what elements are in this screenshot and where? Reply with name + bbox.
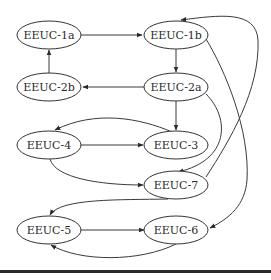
node-eeuc-1b: EEUC-1b: [144, 21, 208, 49]
node-eeuc-7: EEUC-7: [144, 171, 208, 199]
node-eeuc-6: EEUC-6: [144, 216, 208, 244]
edge-3-to-4: [55, 118, 172, 132]
edge-6-to-5: [51, 244, 176, 258]
node-eeuc-2b: EEUC-2b: [17, 73, 81, 101]
dependency-graph: EEUC-1a EEUC-1b EEUC-2b EEUC-2a EEUC-4 E…: [0, 0, 271, 280]
node-eeuc-2a: EEUC-2a: [144, 73, 208, 101]
node-label: EEUC-4: [27, 139, 71, 152]
node-label: EEUC-7: [154, 179, 198, 192]
node-eeuc-4: EEUC-4: [17, 131, 81, 159]
node-label: EEUC-1a: [23, 29, 74, 42]
edge-4-to-7: [50, 159, 143, 185]
node-label: EEUC-5: [27, 224, 71, 237]
node-eeuc-3: EEUC-3: [144, 131, 208, 159]
node-label: EEUC-2b: [23, 81, 75, 94]
edge-7-to-5: [50, 199, 168, 215]
node-label: EEUC-2a: [150, 81, 201, 94]
bottom-divider: [0, 270, 271, 273]
node-eeuc-5: EEUC-5: [17, 216, 81, 244]
node-label: EEUC-1b: [150, 29, 202, 42]
edge-1b-to-6: [206, 39, 247, 228]
node-label: EEUC-6: [154, 224, 198, 237]
node-eeuc-1a: EEUC-1a: [17, 21, 81, 49]
node-label: EEUC-3: [154, 139, 198, 152]
